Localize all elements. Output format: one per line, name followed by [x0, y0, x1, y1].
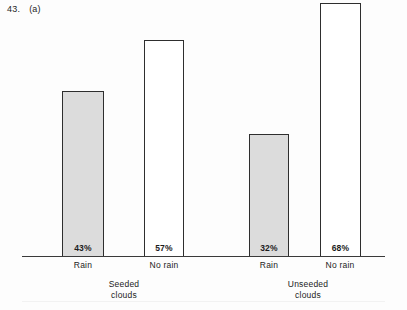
bar-unseeded-rain: 32% — [249, 134, 289, 257]
bar-value-seeded-rain: 43% — [63, 243, 103, 253]
bar-value-unseeded-rain: 32% — [250, 243, 288, 253]
bar-unseeded-no-rain: 68% — [320, 3, 361, 257]
x-tick-label-seeded-rain: Rain — [53, 260, 113, 270]
group-label-unseeded-line1: Unseeded — [274, 279, 342, 290]
x-axis-baseline — [22, 256, 385, 257]
bar-value-seeded-no-rain: 57% — [145, 243, 183, 253]
x-tick-label-unseeded-rain: Rain — [239, 260, 299, 270]
group-label-seeded-clouds: Seeded clouds — [93, 279, 155, 301]
group-label-seeded-line1: Seeded — [93, 279, 155, 290]
page-rule-divider — [22, 301, 385, 302]
group-label-unseeded-clouds: Unseeded clouds — [274, 279, 342, 301]
bar-chart-plot-area: 43% 57% 32% 68% Rain No rain Rain No rai… — [0, 0, 407, 310]
group-label-unseeded-line2: clouds — [274, 290, 342, 301]
bar-value-unseeded-no-rain: 68% — [321, 243, 360, 253]
x-tick-label-unseeded-no-rain: No rain — [310, 260, 370, 270]
group-label-seeded-line2: clouds — [93, 290, 155, 301]
bar-seeded-rain: 43% — [62, 91, 104, 257]
x-tick-label-seeded-no-rain: No rain — [134, 260, 194, 270]
figure-panel: 43.(a) 43% 57% 32% 68% Rain No rain Rain… — [0, 0, 407, 310]
bar-seeded-no-rain: 57% — [144, 40, 184, 257]
